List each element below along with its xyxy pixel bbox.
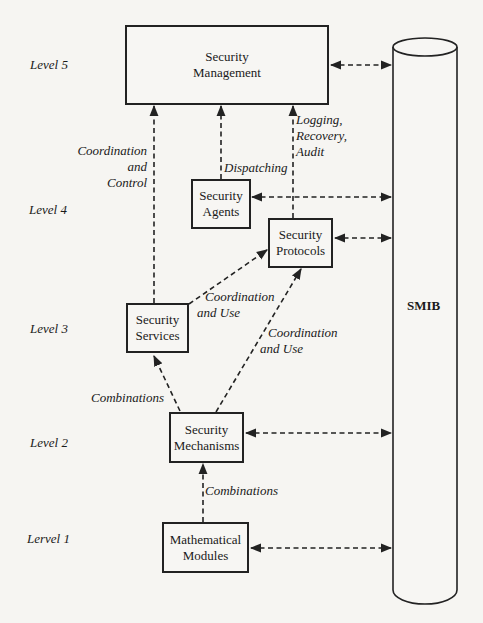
security-management-box: SecurityManagement [125, 25, 329, 105]
coordination-control-label: Coordination and Control [72, 143, 147, 191]
security-services-box: SecurityServices [126, 303, 189, 353]
combinations-services-label: Combinations [91, 390, 164, 406]
level-2-label: Level 2 [30, 435, 68, 451]
smib-label: SMIB [407, 298, 440, 314]
logging-recovery-audit-label: Logging, Recovery, Audit [296, 112, 347, 160]
combinations-modules-label: Combinations [205, 483, 278, 499]
smib-cylinder [393, 38, 457, 604]
level-1-label: Lervel 1 [27, 531, 70, 547]
level-3-label: Level 3 [30, 321, 68, 337]
coordination-use-mechanisms-label: Coordination and Use [260, 325, 338, 357]
dispatching-label: Dispatching [224, 160, 288, 176]
level-5-label: Level 5 [30, 57, 68, 73]
security-protocols-box: SecurityProtocols [268, 218, 333, 268]
mathematical-modules-box: MathematicalModules [162, 522, 249, 573]
security-agents-box: SecurityAgents [191, 179, 251, 229]
coordination-use-services-label: Coordination and Use [197, 289, 275, 321]
security-mechanisms-box: SecurityMechanisms [169, 412, 244, 463]
level-4-label: Level 4 [29, 202, 67, 218]
